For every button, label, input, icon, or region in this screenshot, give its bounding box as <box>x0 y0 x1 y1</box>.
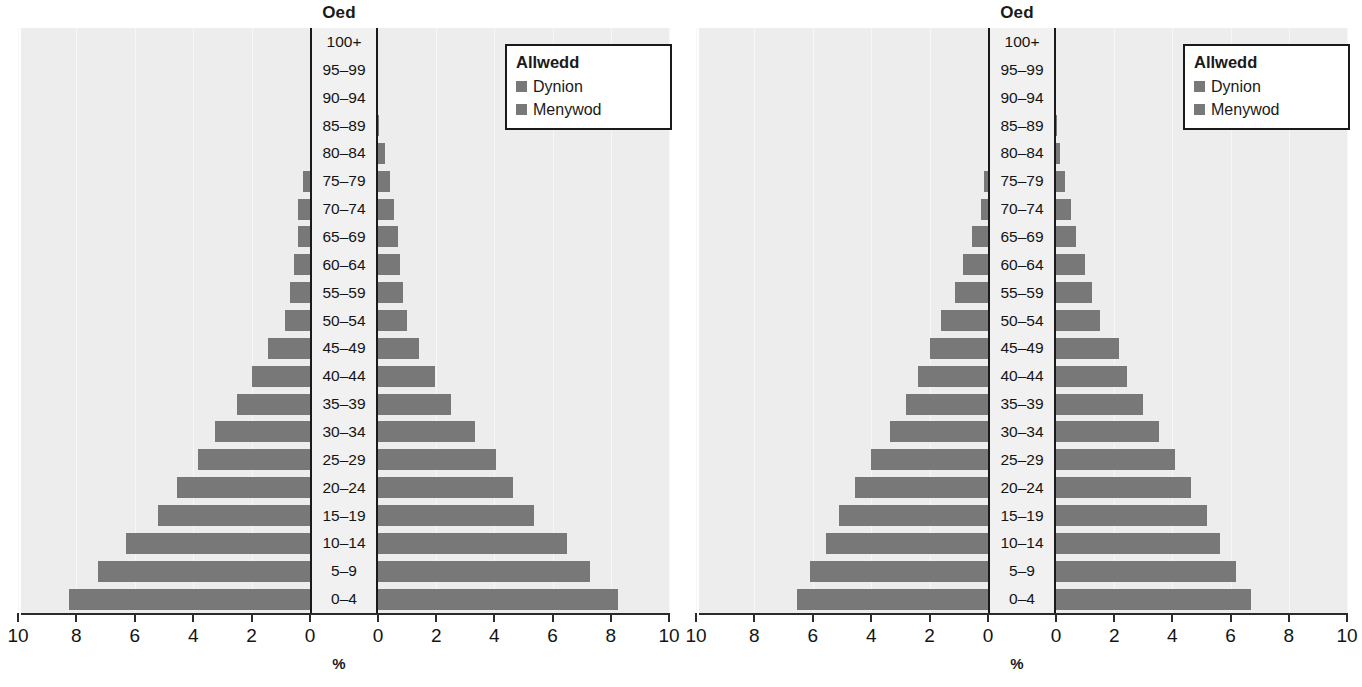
axis-tick-label: 10 <box>0 625 38 647</box>
axis-tick-label: 4 <box>851 625 891 647</box>
bar-dynion-30–34 <box>215 421 313 442</box>
axis-tick-label: 2 <box>910 625 950 647</box>
axis-tick <box>753 613 755 622</box>
axis-tick <box>1230 613 1232 622</box>
age-group-label: 0–4 <box>312 591 376 607</box>
axis-tick <box>668 613 670 622</box>
bar-menywod-40–44 <box>378 366 435 387</box>
legend-swatch-icon-menywod <box>1194 104 1205 115</box>
bar-dynion-5–9 <box>810 561 991 582</box>
bar-dynion-25–29 <box>871 449 991 470</box>
bar-menywod-50–54 <box>1056 310 1100 331</box>
age-group-label: 20–24 <box>990 480 1054 496</box>
bar-menywod-40–44 <box>1056 366 1127 387</box>
axis-tick-label: 0 <box>290 625 330 647</box>
axis-tick-label: 4 <box>474 625 514 647</box>
axis-tick <box>435 613 437 622</box>
age-group-label: 65–69 <box>990 229 1054 245</box>
bar-menywod-75–79 <box>1056 171 1065 192</box>
bar-dynion-45–49 <box>268 338 313 359</box>
axis-tick <box>1346 613 1348 622</box>
age-group-label: 50–54 <box>990 313 1054 329</box>
age-group-label: 25–29 <box>990 452 1054 468</box>
bar-menywod-20–24 <box>378 477 513 498</box>
age-group-label: 10–14 <box>312 535 376 551</box>
bar-menywod-10–14 <box>378 533 567 554</box>
axis-tick-label: 6 <box>1211 625 1251 647</box>
bar-menywod-55–59 <box>378 282 403 303</box>
chart-left-legend-title: Allwedd <box>516 51 661 73</box>
bar-dynion-50–54 <box>285 310 313 331</box>
bar-dynion-15–19 <box>158 505 313 526</box>
axis-tick-label: 0 <box>1036 625 1076 647</box>
axis-tick-label: 2 <box>416 625 456 647</box>
bar-menywod-80–84 <box>1056 143 1060 164</box>
bar-menywod-25–29 <box>1056 449 1175 470</box>
legend-swatch-icon-dynion <box>516 81 527 92</box>
bar-menywod-5–9 <box>378 561 590 582</box>
bar-dynion-40–44 <box>918 366 991 387</box>
axis-tick-label: 6 <box>533 625 573 647</box>
chart-right: Oed 100+95–9990–9485–8980–8475–7970–7465… <box>678 0 1356 687</box>
age-group-label: 75–79 <box>990 173 1054 189</box>
legend-item-menywod: Menywod <box>1194 98 1339 121</box>
bar-menywod-70–74 <box>378 199 394 220</box>
age-group-label: 15–19 <box>312 508 376 524</box>
axis-tick-label: 6 <box>793 625 833 647</box>
axis-tick <box>134 613 136 622</box>
bar-menywod-45–49 <box>378 338 419 359</box>
age-group-label: 65–69 <box>312 229 376 245</box>
bar-menywod-0–4 <box>1056 589 1251 610</box>
axis-tick <box>695 613 697 622</box>
axis-tick-label: 4 <box>1152 625 1192 647</box>
axis-tick <box>552 613 554 622</box>
axis-tick <box>812 613 814 622</box>
bar-dynion-25–29 <box>198 449 313 470</box>
legend-label-menywod: Menywod <box>533 98 601 121</box>
legend-item-dynion: Dynion <box>1194 75 1339 98</box>
bar-dynion-10–14 <box>826 533 991 554</box>
age-group-label: 60–64 <box>990 257 1054 273</box>
bar-menywod-5–9 <box>1056 561 1236 582</box>
chart-right-axis-line <box>699 613 1347 615</box>
axis-tick-label: 0 <box>358 625 398 647</box>
age-group-label: 80–84 <box>990 145 1054 161</box>
bar-dynion-30–34 <box>890 421 991 442</box>
age-group-label: 100+ <box>990 34 1054 50</box>
axis-tick <box>251 613 253 622</box>
axis-tick-label: 8 <box>734 625 774 647</box>
axis-tick <box>192 613 194 622</box>
legend-label-dynion: Dynion <box>533 75 583 98</box>
axis-tick <box>1055 613 1057 622</box>
age-group-label: 5–9 <box>990 563 1054 579</box>
age-group-label: 85–89 <box>312 118 376 134</box>
bar-menywod-85–89 <box>378 115 379 136</box>
gridline-male-10 <box>696 28 697 613</box>
axis-tick <box>493 613 495 622</box>
axis-tick <box>17 613 19 622</box>
age-group-label: 40–44 <box>312 368 376 384</box>
age-group-label: 20–24 <box>312 480 376 496</box>
axis-tick <box>377 613 379 622</box>
chart-right-axis-unit-label: % <box>678 655 1356 672</box>
age-group-label: 35–39 <box>312 396 376 412</box>
axis-tick-label: 6 <box>115 625 155 647</box>
bar-dynion-20–24 <box>177 477 313 498</box>
bar-menywod-30–34 <box>378 421 475 442</box>
legend-item-dynion: Dynion <box>516 75 661 98</box>
chart-left-axis-unit-label: % <box>0 655 678 672</box>
axis-tick-label: 10 <box>1327 625 1362 647</box>
bar-menywod-60–64 <box>1056 254 1085 275</box>
bar-dynion-10–14 <box>126 533 313 554</box>
bar-menywod-75–79 <box>378 171 390 192</box>
bar-menywod-80–84 <box>378 143 385 164</box>
age-group-label: 75–79 <box>312 173 376 189</box>
bar-dynion-60–64 <box>963 254 991 275</box>
age-group-label: 30–34 <box>990 424 1054 440</box>
bar-menywod-10–14 <box>1056 533 1220 554</box>
age-group-label: 95–99 <box>990 62 1054 78</box>
bar-dynion-40–44 <box>252 366 313 387</box>
bar-menywod-70–74 <box>1056 199 1071 220</box>
legend-label-dynion: Dynion <box>1211 75 1261 98</box>
